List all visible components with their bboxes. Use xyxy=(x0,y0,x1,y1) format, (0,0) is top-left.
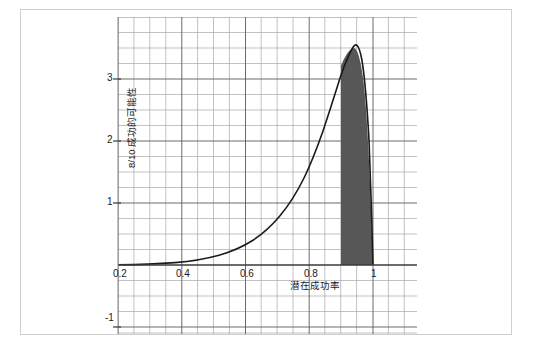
x-tick-label-0.4: 0.4 xyxy=(176,269,190,279)
axes xyxy=(118,17,417,334)
x-tick-label-0.6: 0.6 xyxy=(240,269,254,279)
x-tick-label-0.2: 0.2 xyxy=(113,269,127,279)
grid-major xyxy=(118,17,417,334)
chart-svg xyxy=(0,0,533,346)
x-tick-label-1: 1 xyxy=(371,269,377,279)
shaded-tail-region xyxy=(341,48,373,265)
screenshot-root: 0.2 0.4 0.6 0.8 1 3 2 1 -1 潜在成功率 8/10 成功… xyxy=(0,0,533,346)
grid-minor xyxy=(118,17,417,334)
x-axis-title: 潜在成功率 xyxy=(290,281,340,291)
y-tick-marks xyxy=(113,79,121,327)
y-tick-label-neg1: -1 xyxy=(105,313,114,323)
y-tick-label-3: 3 xyxy=(107,73,113,83)
y-tick-label-2: 2 xyxy=(107,135,113,145)
x-tick-label-0.8: 0.8 xyxy=(304,269,318,279)
chart-figure xyxy=(0,0,533,346)
y-tick-label-1: 1 xyxy=(107,197,113,207)
y-axis-title: 8/10 成功的可能性 xyxy=(127,87,137,168)
